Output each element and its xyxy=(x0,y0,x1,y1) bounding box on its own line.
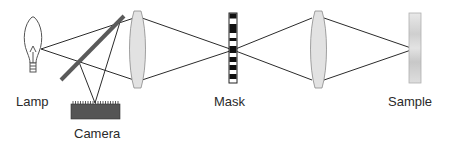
lamp-icon xyxy=(24,17,41,72)
sample-label: Sample xyxy=(388,95,432,108)
sample-slide xyxy=(409,13,421,83)
camera-label: Camera xyxy=(74,127,120,140)
optical-setup-diagram: Lamp Camera Mask Sample xyxy=(0,0,449,150)
lamp-label: Lamp xyxy=(16,95,49,108)
lens-2 xyxy=(311,11,327,88)
lens-1 xyxy=(130,11,146,88)
mask-label: Mask xyxy=(214,95,245,108)
light-rays xyxy=(41,18,414,103)
diagram-canvas xyxy=(0,0,449,150)
camera-icon xyxy=(71,101,120,119)
mask-icon xyxy=(229,13,237,83)
beam-splitter xyxy=(61,16,124,80)
